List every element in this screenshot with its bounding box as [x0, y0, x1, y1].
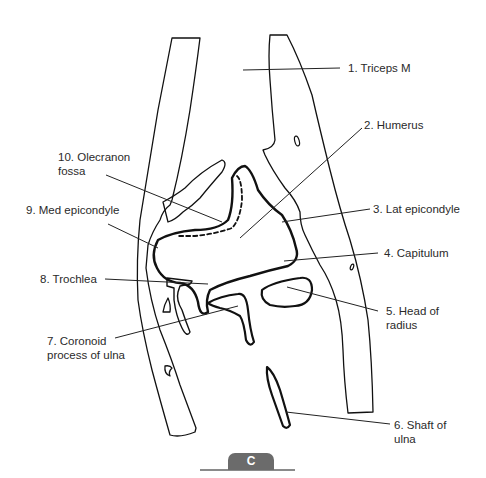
leader-line-3 [282, 209, 370, 222]
panel-label-badge: C [228, 453, 274, 470]
label-triceps: 1. Triceps M [348, 61, 411, 75]
ulna-shaft-outline [267, 367, 290, 428]
left-soft-tissue-outline [137, 38, 200, 436]
coronoid-process-outline [208, 294, 254, 345]
label-shaft-of-ulna: 6. Shaft of ulna [394, 418, 446, 446]
label-lat-epicondyle: 3. Lat epicondyle [373, 202, 460, 216]
elbow-diagram [0, 0, 486, 478]
label-olecranon-fossa: 10. Olecranon fossa [58, 150, 130, 178]
radius-head-outline [262, 278, 312, 307]
label-med-epicondyle: 9. Med epicondyle [26, 203, 119, 217]
leader-line-6 [286, 412, 390, 424]
leader-line-10 [106, 175, 222, 222]
right-soft-tissue-outline [263, 35, 373, 413]
leader-line-9 [108, 224, 158, 248]
medial-fragment-outline [163, 160, 225, 222]
label-capitulum: 4. Capitulum [384, 246, 449, 260]
label-humerus: 2. Humerus [364, 118, 423, 132]
leader-line-1 [243, 68, 340, 70]
label-coronoid-process: 7. Coronoid process of ulna [47, 334, 125, 362]
label-head-of-radius: 5. Head of radius [386, 304, 439, 332]
label-trochlea: 8. Trochlea [40, 272, 97, 286]
